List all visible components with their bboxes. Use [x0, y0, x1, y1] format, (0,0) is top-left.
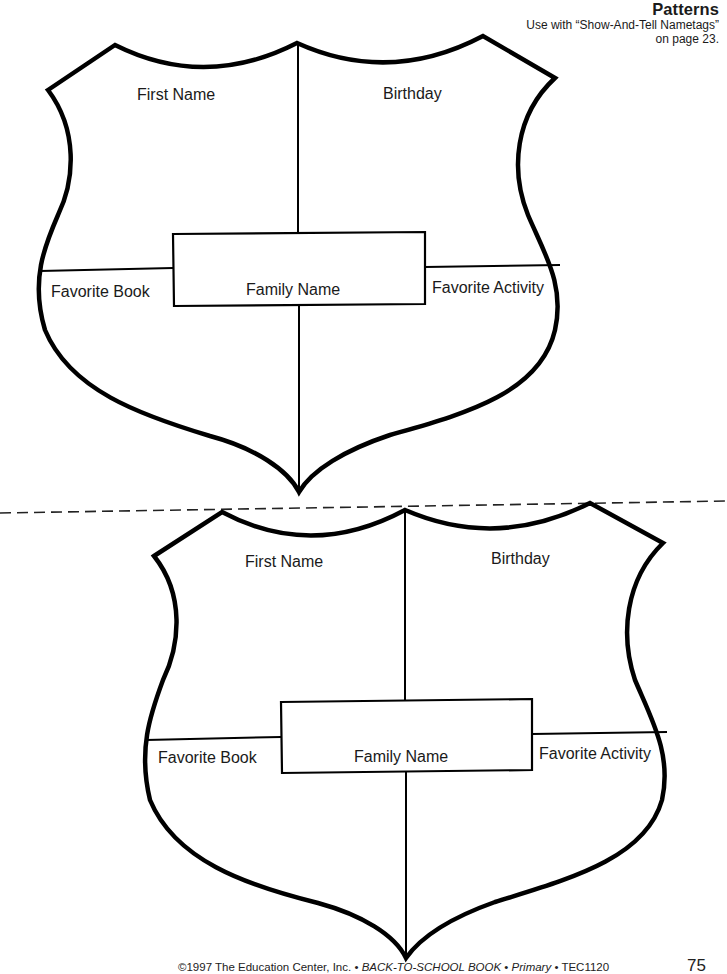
shield-1-birthday-label: Birthday	[383, 85, 442, 103]
shield-2-favorite-activity-label: Favorite Activity	[539, 745, 651, 763]
shield-1	[39, 36, 560, 492]
shield-2-family-name-label: Family Name	[354, 748, 448, 766]
shield-2-divider-right	[532, 732, 667, 734]
page-number: 75	[687, 956, 706, 974]
footer-level: Primary	[512, 961, 552, 973]
cut-line-dashed	[0, 501, 727, 513]
shield-2-favorite-book-label: Favorite Book	[158, 749, 257, 767]
footer-sep1: •	[501, 961, 511, 973]
shield-2-first-name-label: First Name	[245, 553, 323, 571]
shield-1-first-name-label: First Name	[137, 86, 215, 104]
copyright-footer: ©1997 The Education Center, Inc. • BACK-…	[178, 961, 609, 973]
shield-1-divider-right	[425, 265, 560, 267]
footer-copyright: ©1997 The Education Center, Inc. •	[178, 961, 362, 973]
shield-2	[145, 503, 667, 958]
shield-2-divider-left	[146, 737, 281, 740]
shield-1-divider-left	[40, 268, 173, 271]
footer-code: • TEC1120	[551, 961, 609, 973]
footer-book-title: BACK-TO-SCHOOL BOOK	[362, 961, 502, 973]
shield-1-favorite-book-label: Favorite Book	[51, 283, 150, 301]
shield-1-favorite-activity-label: Favorite Activity	[432, 279, 544, 297]
pattern-artwork	[0, 0, 727, 974]
shield-2-birthday-label: Birthday	[491, 550, 550, 568]
shield-1-family-name-label: Family Name	[246, 281, 340, 299]
